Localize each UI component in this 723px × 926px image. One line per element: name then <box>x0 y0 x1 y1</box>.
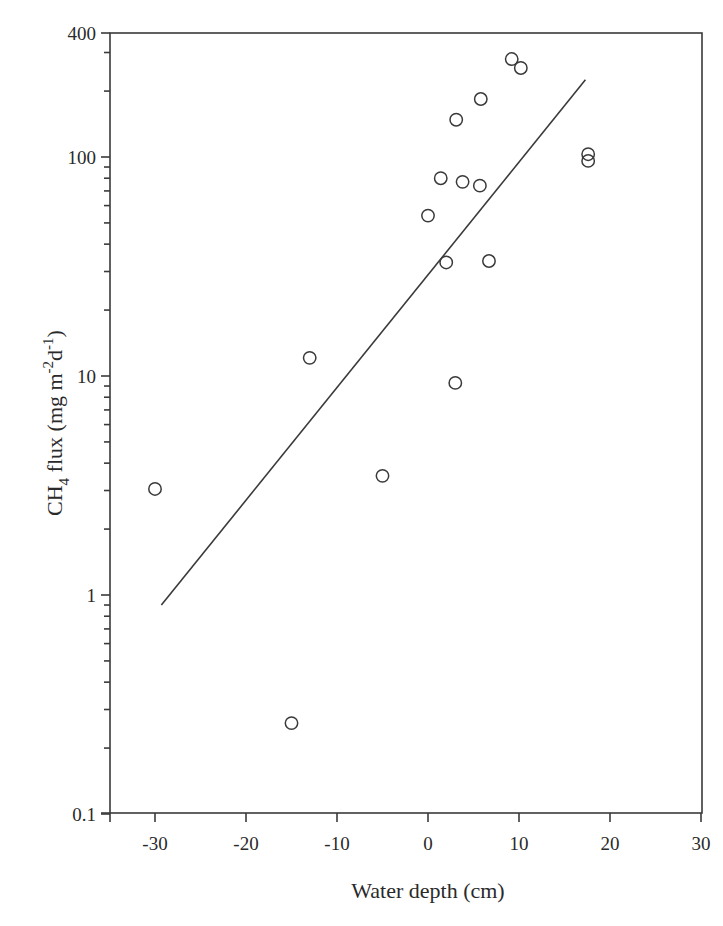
x-tick-label: 30 <box>692 833 711 854</box>
data-point-marker <box>376 470 388 482</box>
scatter-chart: 0.1110100400 -30-20-100102030 Water dept… <box>0 0 723 926</box>
y-label-sup1: -2 <box>40 361 56 374</box>
y-tick-label: 1 <box>87 585 97 606</box>
plot-frame <box>110 33 702 813</box>
svg-text:CH4 flux (mg m-2d-1): CH4 flux (mg m-2d-1) <box>40 330 72 516</box>
data-point-marker <box>285 717 297 729</box>
y-tick-label: 400 <box>68 23 97 44</box>
data-point-marker <box>515 62 527 74</box>
y-label-end: ) <box>42 330 67 337</box>
y-axis-label: CH4 flux (mg m-2d-1) <box>40 330 72 516</box>
data-points <box>149 53 595 729</box>
y-label-ch: CH <box>42 485 67 516</box>
x-axis-ticks: -30-20-100102030 <box>101 813 711 854</box>
y-tick-label: 10 <box>77 366 96 387</box>
regression-line <box>161 80 585 605</box>
x-tick-label: -20 <box>233 833 258 854</box>
y-label-rest: flux (mg m <box>42 373 67 478</box>
y-tick-label: 0.1 <box>72 804 96 825</box>
data-point-marker <box>474 179 486 191</box>
x-tick-label: 10 <box>510 833 529 854</box>
y-label-sup2: -1 <box>40 337 56 350</box>
data-point-marker <box>450 114 462 126</box>
data-point-marker <box>475 93 487 105</box>
x-axis-label: Water depth (cm) <box>351 878 504 903</box>
data-point-marker <box>304 352 316 364</box>
data-point-marker <box>456 176 468 188</box>
data-point-marker <box>483 255 495 267</box>
data-point-marker <box>440 256 452 268</box>
data-point-marker <box>435 172 447 184</box>
y-label-mid: d <box>42 350 67 361</box>
y-tick-label: 100 <box>68 147 97 168</box>
x-tick-label: -10 <box>324 833 349 854</box>
data-point-marker <box>422 209 434 221</box>
x-tick-label: -30 <box>142 833 167 854</box>
x-tick-label: 20 <box>601 833 620 854</box>
x-tick-label: 0 <box>423 833 433 854</box>
y-axis-ticks: 0.1110100400 <box>68 23 111 825</box>
data-point-marker <box>449 377 461 389</box>
data-point-marker <box>149 483 161 495</box>
regression-line-segment <box>161 80 585 605</box>
